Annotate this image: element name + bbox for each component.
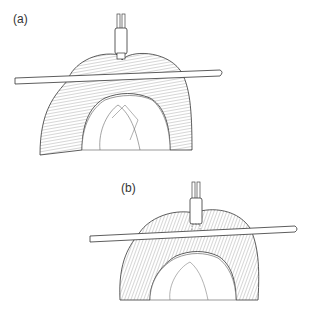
panel-b-drawing [90,182,297,300]
illustration [0,0,312,331]
panel-a-drawing [15,14,222,155]
figure: (a) (b) [0,0,312,331]
